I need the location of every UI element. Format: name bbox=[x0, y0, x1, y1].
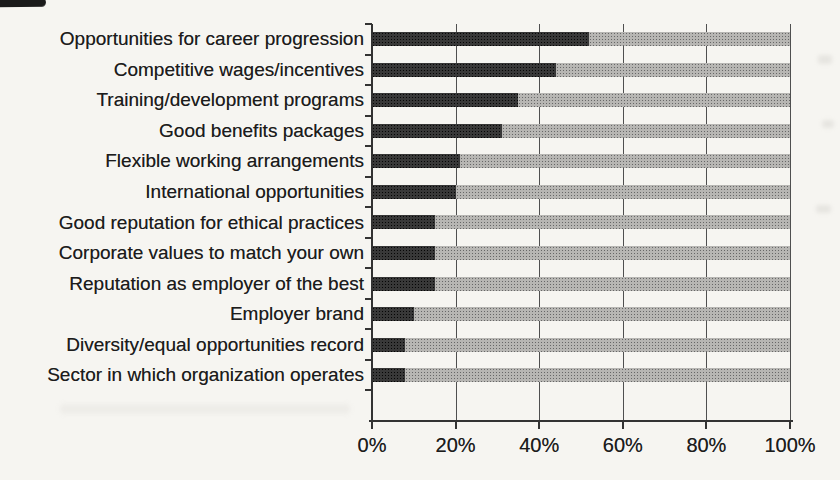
category-label: Corporate values to match your own bbox=[59, 242, 364, 264]
category-tick bbox=[365, 328, 372, 330]
stacked-bar bbox=[372, 154, 790, 168]
category-label: Good benefits packages bbox=[159, 120, 364, 142]
category-label: Good reputation for ethical practices bbox=[59, 212, 364, 234]
category-tick bbox=[365, 359, 372, 361]
bar-row bbox=[372, 55, 790, 86]
category-tick bbox=[365, 206, 372, 208]
bar-row bbox=[372, 360, 790, 391]
bar-row bbox=[372, 177, 790, 208]
bar-segment-selected bbox=[372, 277, 435, 291]
category-tick bbox=[365, 23, 372, 25]
x-axis-tick-label: 80% bbox=[686, 434, 726, 457]
bar-segment-selected bbox=[372, 32, 589, 46]
category-tick bbox=[365, 115, 372, 117]
bar-segment-remainder bbox=[460, 154, 790, 168]
x-tick-0pct bbox=[371, 421, 373, 429]
page-bleed-artifact bbox=[822, 120, 834, 128]
category-label: Sector in which organization operates bbox=[47, 364, 364, 386]
bar-row bbox=[372, 146, 790, 177]
x-tick-40pct bbox=[538, 421, 540, 429]
bar-segment-selected bbox=[372, 307, 414, 321]
x-axis-tick-label: 0% bbox=[358, 434, 387, 457]
x-axis-line bbox=[369, 420, 793, 422]
bar-segment-selected bbox=[372, 185, 456, 199]
page-bleed-artifact bbox=[60, 404, 350, 414]
bar-segment-remainder bbox=[435, 246, 790, 260]
bar-row bbox=[372, 85, 790, 116]
plot-area bbox=[372, 24, 790, 421]
category-label: Competitive wages/incentives bbox=[114, 59, 364, 81]
bar-segment-selected bbox=[372, 63, 556, 77]
x-axis-tick-label: 20% bbox=[436, 434, 476, 457]
category-tick bbox=[365, 176, 372, 178]
category-tick bbox=[365, 237, 372, 239]
category-tick bbox=[365, 267, 372, 269]
x-axis-tick-label: 100% bbox=[764, 434, 815, 457]
gridline-100pct bbox=[790, 24, 791, 421]
stacked-bar bbox=[372, 124, 790, 138]
bar-segment-remainder bbox=[456, 185, 790, 199]
bar-segment-selected bbox=[372, 124, 502, 138]
bar-segment-remainder bbox=[405, 338, 790, 352]
bar-segment-selected bbox=[372, 246, 435, 260]
stacked-bar bbox=[372, 215, 790, 229]
category-label: Opportunities for career progression bbox=[60, 28, 364, 50]
bar-segment-remainder bbox=[435, 215, 790, 229]
category-label: Diversity/equal opportunities record bbox=[66, 334, 364, 356]
stacked-bar bbox=[372, 32, 790, 46]
bar-segment-remainder bbox=[556, 63, 790, 77]
stacked-bar bbox=[372, 63, 790, 77]
bar-row bbox=[372, 329, 790, 360]
stacked-bar bbox=[372, 277, 790, 291]
page-bleed-artifact bbox=[818, 55, 832, 64]
stacked-bar bbox=[372, 307, 790, 321]
bar-segment-selected bbox=[372, 154, 460, 168]
category-tick bbox=[365, 298, 372, 300]
scanned-chart-page: Opportunities for career progressionComp… bbox=[0, 0, 840, 480]
stacked-bar bbox=[372, 338, 790, 352]
category-label: Training/development programs bbox=[96, 89, 364, 111]
bar-segment-selected bbox=[372, 338, 405, 352]
bar-segment-remainder bbox=[405, 368, 790, 382]
x-tick-20pct bbox=[455, 421, 457, 429]
category-tick bbox=[365, 145, 372, 147]
bar-segment-remainder bbox=[589, 32, 790, 46]
bar-row bbox=[372, 116, 790, 147]
x-tick-60pct bbox=[622, 421, 624, 429]
x-axis-tick-label: 60% bbox=[603, 434, 643, 457]
bar-segment-remainder bbox=[502, 124, 790, 138]
x-tick-80pct bbox=[705, 421, 707, 429]
stacked-bar bbox=[372, 185, 790, 199]
bar-segment-remainder bbox=[414, 307, 790, 321]
bar-segment-remainder bbox=[435, 277, 790, 291]
bar-row bbox=[372, 238, 790, 269]
category-label: Flexible working arrangements bbox=[105, 150, 364, 172]
bar-segment-selected bbox=[372, 368, 405, 382]
category-tick bbox=[365, 84, 372, 86]
bar-row bbox=[372, 24, 790, 55]
stacked-bar bbox=[372, 93, 790, 107]
bar-row bbox=[372, 207, 790, 238]
bar-segment-remainder bbox=[518, 93, 790, 107]
category-label: Reputation as employer of the best bbox=[69, 273, 364, 295]
stacked-bar bbox=[372, 246, 790, 260]
category-label: Employer brand bbox=[230, 303, 364, 325]
bar-segment-selected bbox=[372, 93, 518, 107]
category-label: International opportunities bbox=[145, 181, 364, 203]
category-tick bbox=[365, 389, 372, 391]
bar-row bbox=[372, 268, 790, 299]
x-axis-tick-label: 40% bbox=[519, 434, 559, 457]
bar-segment-selected bbox=[372, 215, 435, 229]
category-tick bbox=[365, 54, 372, 56]
x-tick-100pct bbox=[789, 421, 791, 429]
stacked-bar bbox=[372, 368, 790, 382]
page-bleed-artifact bbox=[816, 205, 831, 213]
bar-row bbox=[372, 299, 790, 330]
scan-smudge-artifact bbox=[0, 0, 46, 7]
